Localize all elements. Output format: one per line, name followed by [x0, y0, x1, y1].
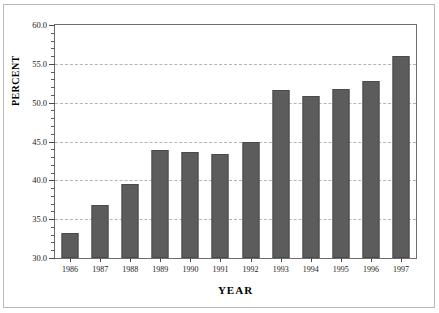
- x-tick-label: 1987: [92, 265, 108, 274]
- bar: [62, 233, 79, 258]
- x-tick-label: 1988: [122, 265, 138, 274]
- bar-slot: [386, 25, 416, 258]
- bar: [212, 154, 229, 258]
- bar-slot: [356, 25, 386, 258]
- x-tick: [341, 258, 342, 262]
- bar: [362, 81, 379, 258]
- bar: [242, 142, 259, 259]
- bar: [272, 90, 289, 258]
- bar: [392, 56, 409, 258]
- y-tick-label: 40.0: [32, 175, 47, 185]
- x-tick: [70, 258, 71, 262]
- bar-slot: [205, 25, 235, 258]
- y-tick-label: 60.0: [32, 20, 47, 30]
- x-tick: [160, 258, 161, 262]
- x-tick-label: 1991: [212, 265, 228, 274]
- y-axis-title: PERCENT: [10, 55, 21, 106]
- y-tick-label: 50.0: [32, 98, 47, 108]
- x-tick: [281, 258, 282, 262]
- x-tick-label: 1994: [303, 265, 319, 274]
- x-tick-label: 1989: [152, 265, 168, 274]
- x-tick-label: 1993: [273, 265, 289, 274]
- bar-slot: [55, 25, 85, 258]
- bar: [92, 205, 109, 258]
- bars-layer: [55, 25, 416, 258]
- bar-slot: [85, 25, 115, 258]
- x-tick-label: 1990: [182, 265, 198, 274]
- bar-slot: [115, 25, 145, 258]
- bar-slot: [266, 25, 296, 258]
- bar-slot: [175, 25, 205, 258]
- x-tick: [251, 258, 252, 262]
- x-tick: [401, 258, 402, 262]
- x-tick: [100, 258, 101, 262]
- bar: [182, 152, 199, 258]
- x-tick: [311, 258, 312, 262]
- x-tick-label: 1996: [363, 265, 379, 274]
- y-tick-major: [49, 258, 55, 259]
- x-axis-title: YEAR: [54, 284, 417, 296]
- bar-slot: [145, 25, 175, 258]
- bar: [302, 96, 319, 258]
- x-tick-label: 1997: [393, 265, 409, 274]
- plot-area: 30.035.040.045.050.055.060.0 19861987198…: [54, 24, 417, 259]
- x-tick: [220, 258, 221, 262]
- bar-slot: [296, 25, 326, 258]
- x-tick-label: 1992: [243, 265, 259, 274]
- chart-figure: PERCENT 30.035.040.045.050.055.060.0 198…: [0, 0, 439, 313]
- x-tick-label: 1995: [333, 265, 349, 274]
- y-tick-label: 35.0: [32, 214, 47, 224]
- bar: [332, 89, 349, 258]
- bar: [152, 150, 169, 258]
- y-tick-label: 45.0: [32, 137, 47, 147]
- x-tick: [190, 258, 191, 262]
- x-tick-label: 1986: [62, 265, 78, 274]
- x-tick: [371, 258, 372, 262]
- bar: [122, 184, 139, 258]
- bar-slot: [326, 25, 356, 258]
- y-tick-label: 55.0: [32, 59, 47, 69]
- x-tick: [130, 258, 131, 262]
- bar-slot: [236, 25, 266, 258]
- y-tick-label: 30.0: [32, 253, 47, 263]
